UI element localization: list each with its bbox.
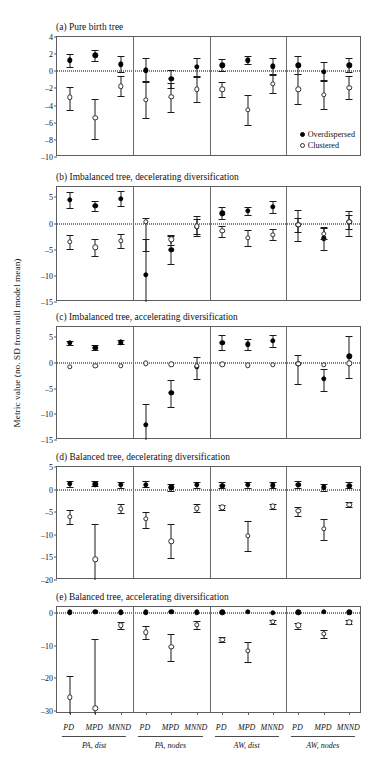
data-point-clustered (169, 362, 174, 367)
error-bar-cap-upper (168, 70, 175, 71)
error-bar-cap-upper (92, 99, 99, 100)
error-bar-cap-lower (244, 662, 251, 663)
y-tick-label: –20 (41, 576, 53, 585)
y-tick-mark (54, 157, 57, 158)
data-point-overdispersed (118, 62, 123, 67)
error-bar-cap-lower (320, 239, 327, 240)
y-tick-label: 4 (49, 33, 53, 42)
error-bar-cap-upper (117, 56, 124, 57)
y-tick-mark (54, 122, 57, 123)
error-bar-cap-lower (66, 524, 73, 525)
data-point-clustered (296, 508, 301, 513)
error-bar-cap-lower (168, 245, 175, 246)
data-point-clustered (321, 92, 326, 97)
data-point-overdispersed (270, 338, 275, 343)
error-bar-cap-upper (142, 626, 149, 627)
legend-item-label: Overdispersed (308, 129, 355, 140)
error-bar-cap-lower (66, 249, 73, 250)
panel-d: (d) Balanced tree, decelerating diversif… (56, 466, 361, 579)
error-bar-cap-lower (66, 487, 73, 488)
y-tick-label: –10 (41, 271, 53, 280)
data-point-clustered (143, 630, 148, 635)
x-tick-label: MPD (238, 723, 255, 732)
error-bar-cap-upper (219, 226, 226, 227)
data-point-clustered (347, 361, 352, 366)
data-point-overdispersed (321, 376, 326, 381)
error-bar-cap-upper (219, 207, 226, 208)
error-bar-cap-upper (168, 380, 175, 381)
data-point-overdispersed (270, 204, 275, 209)
y-tick-mark (54, 414, 57, 415)
error-bar-cap-lower (244, 125, 251, 126)
error-bar-cap-upper (320, 519, 327, 520)
error-bar-cap-upper (168, 634, 175, 635)
y-tick-label: –15 (41, 436, 53, 445)
data-point-overdispersed (143, 68, 148, 73)
error-bar-cap-lower (295, 232, 302, 233)
data-point-clustered (270, 81, 275, 86)
error-bar-cap-lower (346, 229, 353, 230)
error-bar-cap-lower (168, 661, 175, 662)
error-bar-cap-upper (320, 228, 327, 229)
error-bar-cap-lower (92, 61, 99, 62)
x-tick-label: MNND (260, 723, 283, 732)
y-tick-label: –10 (41, 153, 53, 162)
error-bar-cap-lower (66, 67, 73, 68)
group-separator (210, 327, 211, 438)
plot-area-e: 0–10–20–30 (56, 606, 361, 713)
error-bar-cap-lower (270, 213, 277, 214)
panel-e: (e) Balanced tree, accelerating diversif… (56, 606, 361, 713)
group-separator (133, 327, 134, 438)
group-rule (215, 736, 279, 737)
error-bar-cap-lower (219, 219, 226, 220)
error-bar-cap-upper (244, 521, 251, 522)
error-bar-cap-upper (244, 642, 251, 643)
error-bar-cap-lower (219, 237, 226, 238)
error-bar-cap-lower (320, 109, 327, 110)
data-point-overdispersed (67, 57, 72, 62)
y-tick-label: 2 (49, 50, 53, 59)
error-bar-cap-upper (66, 510, 73, 511)
error-bar-cap-upper (295, 355, 302, 356)
error-bar-cap-lower (117, 206, 124, 207)
data-point-overdispersed (194, 482, 199, 487)
error-bar-cap-lower (219, 97, 226, 98)
y-tick-label: 5 (49, 463, 53, 472)
group-separator (210, 467, 211, 578)
error-bar-cap-lower (295, 384, 302, 385)
y-tick-mark (54, 467, 57, 468)
data-point-overdispersed (296, 609, 301, 614)
zero-reference-line (57, 613, 360, 614)
error-bar-cap-upper (295, 210, 302, 211)
data-point-overdispersed (220, 340, 225, 345)
y-tick-label: 0 (49, 67, 53, 76)
error-bar-cap-lower (117, 248, 124, 249)
data-point-clustered (67, 364, 72, 369)
error-bar-cap-lower (92, 486, 99, 487)
error-bar-cap-upper (346, 58, 353, 59)
group-separator (210, 607, 211, 712)
data-point-overdispersed (220, 63, 225, 68)
data-point-clustered (194, 505, 199, 510)
error-bar-cap-upper (346, 76, 353, 77)
error-bar-cap-upper (117, 76, 124, 77)
data-point-overdispersed (270, 63, 275, 68)
group-separator (133, 607, 134, 712)
error-bar-cap-upper (66, 676, 73, 677)
y-tick-label: –4 (45, 101, 53, 110)
error-bar-cap-lower (219, 510, 226, 511)
data-point-overdispersed (270, 610, 275, 615)
error-bar-cap-lower (92, 256, 99, 257)
error-bar-cap-lower (270, 240, 277, 241)
data-point-clustered (347, 85, 352, 90)
error-bar-cap-upper (168, 83, 175, 84)
error-bar-cap-lower (346, 507, 353, 508)
data-point-clustered (67, 239, 72, 244)
group-rule (291, 736, 355, 737)
data-point-clustered (245, 533, 250, 538)
data-point-clustered (118, 84, 123, 89)
y-tick-mark (54, 678, 57, 679)
error-bar-cap-upper (270, 201, 277, 202)
error-bar-cap-lower (346, 72, 353, 73)
error-bar-cap-lower (66, 110, 73, 111)
